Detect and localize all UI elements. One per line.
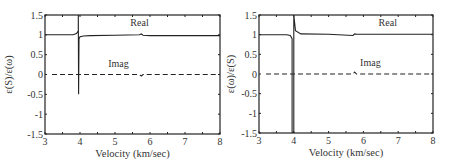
x-tick-label: 8: [218, 136, 223, 147]
series-imag-line: [266, 72, 433, 74]
x-tick-label: 3: [257, 135, 262, 146]
x-tick-label: 5: [326, 135, 331, 146]
y-tick-label: 0.5: [31, 49, 44, 60]
right-plot: 3456781.510.50-0.5-1-1.5Velocity (km/sec…: [225, 10, 436, 160]
y-tick-label: -1.5: [241, 128, 257, 139]
y-tick-label: 0: [252, 69, 257, 80]
y-tick-label: -1.5: [27, 129, 43, 140]
y-tick-label: -0.5: [27, 89, 43, 100]
y-tick-label: 1.5: [31, 10, 44, 21]
x-tick-label: 4: [291, 135, 296, 146]
y-tick-label: -1: [35, 109, 43, 120]
y-tick-label: 0.5: [245, 49, 258, 60]
chart-canvas: 3456781.510.50-0.5-1-1.5Velocity (km/sec…: [0, 0, 452, 166]
annotation-imag: Imag: [108, 58, 129, 69]
x-tick-label: 7: [396, 135, 401, 146]
x-tick-label: 3: [43, 136, 48, 147]
y-tick-label: -0.5: [241, 88, 257, 99]
y-tick-label: 1.5: [245, 10, 258, 21]
y-tick-label: 0: [38, 69, 43, 80]
y-tick-label: 1: [38, 29, 43, 40]
y-tick-label: 1: [252, 29, 257, 40]
x-tick-label: 8: [431, 135, 436, 146]
annotation-imag: Imag: [360, 57, 381, 68]
annotation-real: Real: [379, 17, 398, 28]
x-tick-label: 6: [361, 135, 366, 146]
annotation-real: Real: [130, 17, 149, 28]
x-axis-label: Velocity (km/sec): [95, 148, 170, 160]
y-axis-label: ε(S)/ε(ω): [3, 55, 15, 94]
x-tick-label: 5: [113, 136, 118, 147]
x-tick-label: 4: [78, 136, 83, 147]
x-axis-label: Velocity (km/sec): [309, 147, 384, 159]
y-axis-label: ε(ω)/ε(S): [225, 54, 237, 93]
y-tick-label: -1: [249, 108, 257, 119]
x-tick-label: 7: [183, 136, 188, 147]
series-imag-line: [52, 75, 220, 77]
x-tick-label: 6: [148, 136, 153, 147]
left-plot: 3456781.510.50-0.5-1-1.5Velocity (km/sec…: [3, 10, 223, 161]
